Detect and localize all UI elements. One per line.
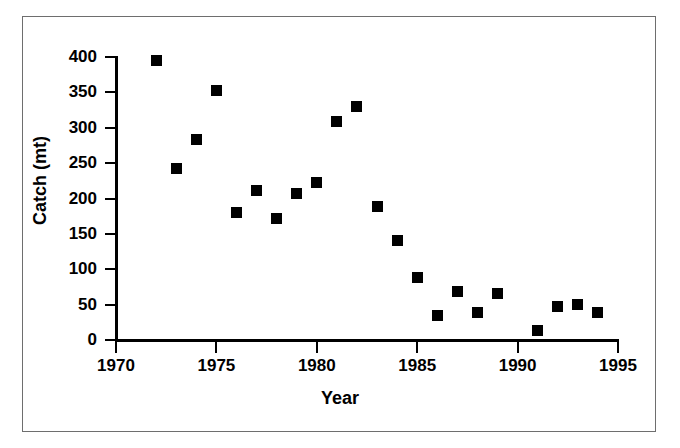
data-point (251, 185, 262, 196)
data-point (211, 85, 222, 96)
y-axis-tick-label: 400 (41, 48, 97, 65)
data-point (552, 301, 563, 312)
data-point (271, 213, 282, 224)
y-axis-line (115, 56, 118, 342)
x-axis-title: Year (0, 388, 680, 409)
y-axis-tick (105, 304, 115, 306)
y-axis-tick-label: 50 (41, 296, 97, 313)
data-point (412, 272, 423, 283)
data-point (492, 288, 503, 299)
data-point (392, 235, 403, 246)
y-axis-tick (105, 91, 115, 93)
data-point (432, 310, 443, 321)
data-point (171, 163, 182, 174)
y-axis-tick (105, 127, 115, 129)
x-axis-tick-label: 1970 (81, 357, 151, 374)
x-axis-tick (316, 342, 318, 353)
x-axis-tick (416, 342, 418, 353)
y-axis-tick (105, 339, 115, 341)
x-axis-tick (115, 342, 117, 353)
x-axis-tick (215, 342, 217, 353)
x-axis-tick-label: 1985 (382, 357, 452, 374)
y-axis-title: Catch (mt) (30, 81, 51, 281)
data-point (311, 177, 322, 188)
x-axis-line (115, 339, 619, 342)
data-point (592, 307, 603, 318)
plot-area: 050100150200250300350400 197019751980198… (0, 0, 680, 448)
data-point (191, 134, 202, 145)
x-axis-tick (617, 342, 619, 353)
data-point (291, 188, 302, 199)
data-point (351, 101, 362, 112)
x-axis-tick-label: 1980 (282, 357, 352, 374)
data-point (151, 55, 162, 66)
y-axis-tick (105, 162, 115, 164)
x-axis-tick-label: 1995 (583, 357, 653, 374)
y-axis-tick (105, 268, 115, 270)
y-axis-tick-label: 0 (41, 331, 97, 348)
data-point (331, 116, 342, 127)
y-axis-tick (105, 56, 115, 58)
y-axis-tick (105, 198, 115, 200)
x-axis-tick-label: 1990 (483, 357, 553, 374)
data-point (372, 201, 383, 212)
data-point (231, 207, 242, 218)
figure: 050100150200250300350400 197019751980198… (0, 0, 680, 448)
data-point (532, 325, 543, 336)
data-point (452, 286, 463, 297)
y-axis-tick (105, 233, 115, 235)
data-point (472, 307, 483, 318)
x-axis-tick (517, 342, 519, 353)
x-axis-tick-label: 1975 (181, 357, 251, 374)
data-point (572, 299, 583, 310)
